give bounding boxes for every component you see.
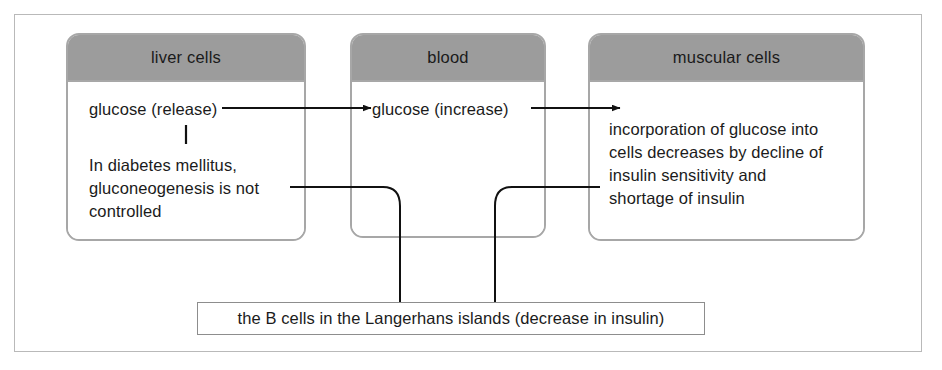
diagram-canvas: liver cells glucose (release) In diabete… [0, 0, 942, 370]
compartment-muscular-cells-body: incorporation of glucose into cells decr… [590, 82, 863, 239]
compartment-liver-cells-header: liver cells [68, 35, 304, 82]
muscular-incorporation-label: incorporation of glucose into cells decr… [609, 118, 823, 210]
liver-gluconeogenesis-label: In diabetes mellitus, gluconeogenesis is… [89, 154, 259, 223]
compartment-muscular-cells-header: muscular cells [590, 35, 863, 82]
langerhans-note-box: the B cells in the Langerhans islands (d… [197, 302, 705, 335]
compartment-liver-cells-body: glucose (release) In diabetes mellitus, … [68, 82, 304, 239]
compartment-blood-body: glucose (increase) [352, 82, 544, 236]
compartment-blood-header: blood [352, 35, 544, 82]
blood-glucose-increase-label: glucose (increase) [372, 98, 509, 121]
compartment-muscular-cells: muscular cells incorporation of glucose … [588, 33, 865, 241]
compartment-blood: blood glucose (increase) [350, 33, 546, 238]
langerhans-note-label: the B cells in the Langerhans islands (d… [238, 309, 665, 328]
compartment-liver-cells: liver cells glucose (release) In diabete… [66, 33, 306, 241]
liver-glucose-release-label: glucose (release) [89, 98, 217, 121]
